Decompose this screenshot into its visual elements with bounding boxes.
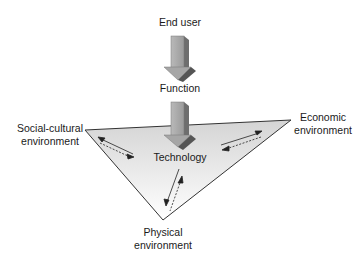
social-cultural-label: Social-cultural environment	[12, 122, 88, 148]
function-label: Function	[150, 82, 210, 95]
economic-line1: Economic	[290, 111, 356, 124]
physical-label: Physical environment	[130, 226, 196, 252]
technology-label: Technology	[145, 151, 215, 164]
physical-line2: environment	[130, 239, 196, 252]
physical-line1: Physical	[130, 226, 196, 239]
social-cultural-line1: Social-cultural	[12, 122, 88, 135]
social-cultural-line2: environment	[12, 135, 88, 148]
arrow-enduser-to-function	[164, 36, 196, 82]
end-user-label: End user	[150, 16, 210, 29]
economic-line2: environment	[290, 124, 356, 137]
economic-label: Economic environment	[290, 111, 356, 137]
